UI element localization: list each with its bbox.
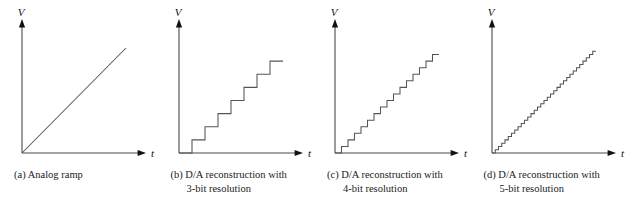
analog-ramp-trace xyxy=(22,48,126,153)
caption-b: (b) D/A reconstruction with 3-bit resolu… xyxy=(157,168,314,195)
chart-c: Vt xyxy=(313,0,470,168)
plot-area-a: Vt xyxy=(0,0,157,168)
caption-a: (a) Analog ramp xyxy=(0,168,157,182)
panel-d: Vt (d) D/A reconstruction with 5-bit res… xyxy=(470,0,626,209)
x-axis-label: t xyxy=(151,147,155,159)
caption-d-line-2: 5-bit resolution xyxy=(470,182,626,196)
chart-b: Vt xyxy=(157,0,314,168)
plot-area-c: Vt xyxy=(313,0,470,168)
y-axis-arrowhead xyxy=(332,19,338,27)
caption-a-line-1: (a) Analog ramp xyxy=(0,168,157,182)
figure-panel-row: Vt (a) Analog ramp Vt (b) D/A reconstruc… xyxy=(0,0,626,209)
panel-c: Vt (c) D/A reconstruction with 4-bit res… xyxy=(313,0,470,209)
plot-area-b: Vt xyxy=(157,0,314,168)
x-axis-label: t xyxy=(621,147,625,159)
y-axis-label: V xyxy=(18,6,26,18)
panel-b: Vt (b) D/A reconstruction with 3-bit res… xyxy=(157,0,314,209)
chart-d: Vt xyxy=(470,0,626,168)
chart-a: Vt xyxy=(0,0,157,168)
x-axis-arrowhead xyxy=(451,150,459,156)
x-axis-label: t xyxy=(464,147,468,159)
plot-area-d: Vt xyxy=(470,0,626,168)
staircase-trace xyxy=(335,55,439,153)
x-axis-arrowhead xyxy=(607,150,615,156)
caption-d-line-1: (d) D/A reconstruction with xyxy=(470,168,626,182)
caption-c: (c) D/A reconstruction with 4-bit resolu… xyxy=(313,168,470,195)
x-axis-arrowhead xyxy=(138,150,146,156)
staircase-trace xyxy=(179,61,283,153)
y-axis-label: V xyxy=(174,6,182,18)
y-axis-arrowhead xyxy=(175,19,181,27)
caption-b-line-1: (b) D/A reconstruction with xyxy=(157,168,314,182)
x-axis-label: t xyxy=(308,147,312,159)
y-axis-arrowhead xyxy=(488,19,494,27)
panel-a: Vt (a) Analog ramp xyxy=(0,0,157,209)
x-axis-arrowhead xyxy=(294,150,302,156)
y-axis-label: V xyxy=(487,6,495,18)
y-axis-label: V xyxy=(331,6,339,18)
y-axis-arrowhead xyxy=(19,19,25,27)
caption-d: (d) D/A reconstruction with 5-bit resolu… xyxy=(470,168,626,195)
caption-b-line-2: 3-bit resolution xyxy=(157,182,314,196)
caption-c-line-1: (c) D/A reconstruction with xyxy=(313,168,470,182)
staircase-trace xyxy=(492,51,596,153)
caption-c-line-2: 4-bit resolution xyxy=(313,182,470,196)
